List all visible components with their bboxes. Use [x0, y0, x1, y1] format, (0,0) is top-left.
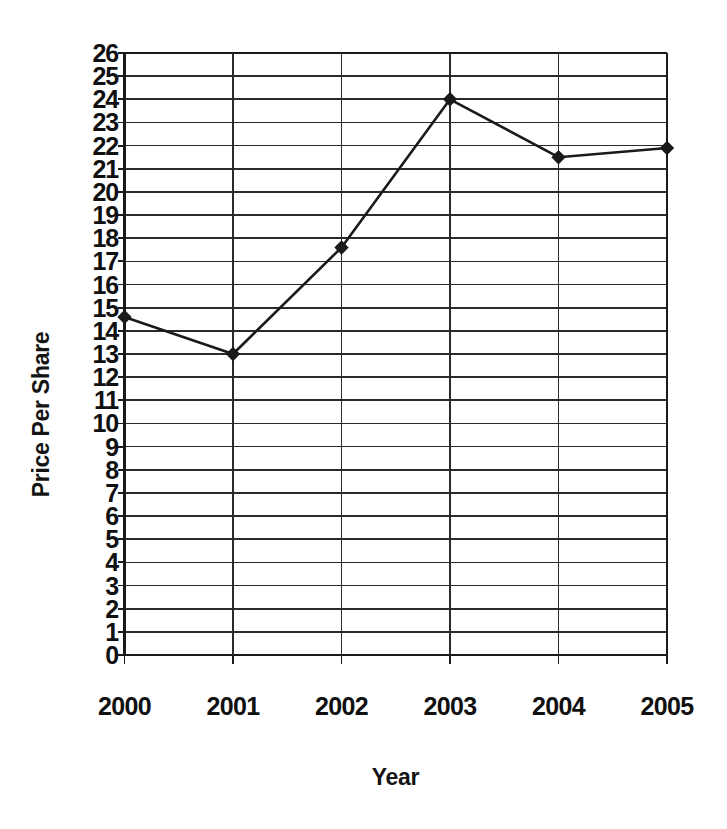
- x-axis-title: Year: [124, 764, 667, 791]
- x-tick-label: 2003: [395, 694, 505, 719]
- x-tick-label: 2005: [612, 694, 722, 719]
- axis-tick-marks: [118, 53, 668, 664]
- horizontal-gridlines: [125, 53, 668, 655]
- x-tick-label: 2001: [178, 694, 288, 719]
- data-point-markers: [117, 92, 674, 361]
- data-point-marker: [117, 310, 131, 324]
- data-point-marker: [660, 141, 674, 155]
- x-tick-label: 2002: [287, 694, 397, 719]
- x-axis-tick-labels: 200020012002200320042005: [0, 694, 727, 734]
- x-tick-label: 2004: [504, 694, 614, 719]
- line-chart-figure: Price Per Share 012345678910111213141516…: [0, 0, 727, 829]
- x-tick-label: 2000: [70, 694, 180, 719]
- data-point-marker: [551, 150, 565, 164]
- data-series-line: [125, 99, 668, 354]
